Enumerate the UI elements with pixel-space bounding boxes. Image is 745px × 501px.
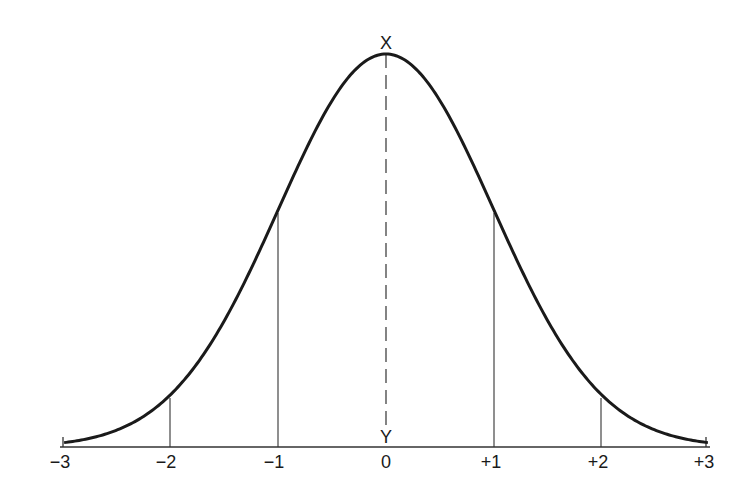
- tick-label: 0: [381, 453, 391, 471]
- baseline-label-y: Y: [380, 428, 392, 446]
- tick-label: −1: [264, 453, 285, 471]
- tick-label: +1: [481, 453, 502, 471]
- tick-label: −3: [50, 453, 71, 471]
- tick-label: +2: [588, 453, 609, 471]
- tick-label: −2: [156, 453, 177, 471]
- tick-label: +3: [694, 453, 715, 471]
- normal-curve-diagram: [0, 0, 745, 501]
- peak-label-x: X: [380, 34, 392, 52]
